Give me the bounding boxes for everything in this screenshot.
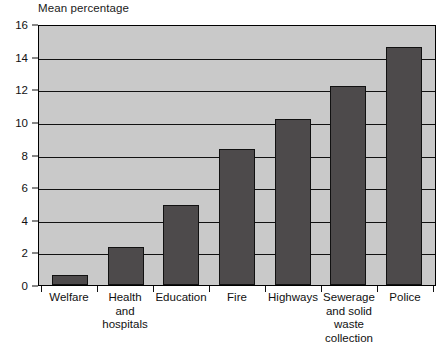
x-axis-category-label: Education: [153, 291, 209, 345]
y-axis-tick-label: 10: [15, 117, 28, 129]
y-axis-tick-label: 12: [15, 84, 28, 96]
bar-slot: [209, 26, 265, 285]
x-axis-label-line: Highways: [266, 291, 320, 305]
x-axis-label-line: Health and: [98, 291, 152, 318]
x-axis-category-label: Health andhospitals: [97, 291, 153, 345]
bar-chart: Mean percentage 0246810121416 WelfareHea…: [0, 0, 445, 350]
x-axis-label-line: Welfare: [42, 291, 96, 305]
x-axis-label-line: Education: [154, 291, 208, 305]
y-axis-tick-label: 14: [15, 52, 28, 64]
y-axis-tick-label: 6: [22, 182, 28, 194]
bar-slot: [265, 26, 321, 285]
bar-slot: [42, 26, 98, 285]
x-axis-category-label: Welfare: [41, 291, 97, 345]
x-axis-label-line: waste: [322, 318, 376, 332]
x-axis-category-label: Sewerageand solidwastecollection: [321, 291, 377, 345]
plot-area: [38, 25, 436, 286]
y-axis-tick-label: 8: [22, 150, 28, 162]
bar-slot: [153, 26, 209, 285]
y-axis-tick-label: 0: [22, 280, 28, 292]
x-axis-label-line: and solid: [322, 305, 376, 319]
bar[interactable]: [275, 119, 311, 285]
x-axis-label-line: Sewerage: [322, 291, 376, 305]
x-axis-label-line: Fire: [210, 291, 264, 305]
x-axis-label-line: Police: [378, 291, 432, 305]
y-axis-tick-label: 4: [22, 215, 28, 227]
bar[interactable]: [108, 247, 144, 285]
bar[interactable]: [386, 47, 422, 285]
bar[interactable]: [52, 275, 88, 285]
y-axis-tick-label: 16: [15, 19, 28, 31]
y-axis: 0246810121416: [0, 0, 38, 350]
x-axis-category-label: Highways: [265, 291, 321, 345]
bars-layer: [39, 26, 435, 285]
y-axis-title: Mean percentage: [38, 2, 129, 14]
bar[interactable]: [219, 149, 255, 285]
y-axis-tick-label: 2: [22, 247, 28, 259]
x-axis-category-label: Police: [377, 291, 433, 345]
bar-slot: [98, 26, 154, 285]
bar-slot: [376, 26, 432, 285]
bar[interactable]: [330, 86, 366, 285]
bar-slot: [321, 26, 377, 285]
x-axis-labels: WelfareHealth andhospitalsEducationFireH…: [38, 291, 436, 345]
x-axis-category-label: Fire: [209, 291, 265, 345]
x-axis-label-line: hospitals: [98, 318, 152, 332]
x-axis-label-line: collection: [322, 332, 376, 346]
plot-wrapper: [38, 25, 436, 286]
bar[interactable]: [163, 205, 199, 285]
